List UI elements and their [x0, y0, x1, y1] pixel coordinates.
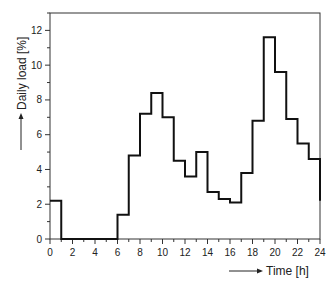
daily-load-chart: 024681012 024681012141618202224 Daily lo…: [0, 0, 334, 285]
x-tick-label: 8: [137, 247, 143, 258]
arrow-up-icon: [19, 113, 24, 119]
plot-frame: [50, 13, 320, 239]
x-axis-label: Time [h]: [266, 264, 309, 278]
y-axis-label-group: Daily load [%]: [15, 37, 29, 150]
x-tick-label: 0: [47, 247, 53, 258]
x-axis-label-group: Time [h]: [229, 264, 309, 278]
daily-load-step-line: [50, 37, 320, 239]
y-tick-label: 6: [36, 129, 42, 140]
x-tick-label: 10: [157, 247, 169, 258]
x-tick-label: 6: [115, 247, 121, 258]
y-tick-label: 12: [31, 25, 43, 36]
x-tick-label: 20: [269, 247, 281, 258]
x-tick-label: 18: [247, 247, 259, 258]
x-tick-label: 22: [292, 247, 304, 258]
x-tick-label: 4: [92, 247, 98, 258]
x-tick-label: 24: [314, 247, 326, 258]
y-tick-label: 10: [31, 60, 43, 71]
y-axis-ticks: 024681012: [31, 13, 50, 245]
x-tick-label: 16: [224, 247, 236, 258]
x-tick-label: 14: [202, 247, 214, 258]
y-tick-label: 4: [36, 164, 42, 175]
arrow-right-icon: [257, 269, 263, 274]
y-axis-label: Daily load [%]: [15, 37, 29, 110]
x-tick-label: 2: [70, 247, 76, 258]
y-tick-label: 8: [36, 94, 42, 105]
y-tick-label: 0: [36, 234, 42, 245]
x-axis-ticks: 024681012141618202224: [47, 239, 326, 258]
x-tick-label: 12: [179, 247, 191, 258]
y-tick-label: 2: [36, 199, 42, 210]
